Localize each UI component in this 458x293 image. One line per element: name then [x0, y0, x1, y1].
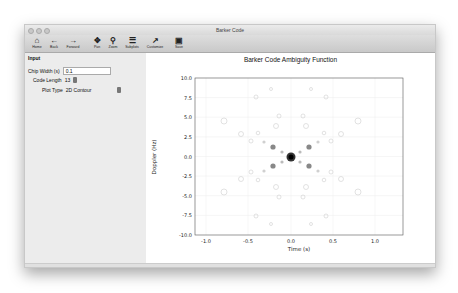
code-length-dropdown-icon[interactable] — [73, 77, 77, 83]
input-panel-header: Input — [28, 55, 40, 61]
input-panel: Input Chip Width (s) 0.1 Code Length 13 … — [25, 53, 145, 264]
floppy-disk-icon: ▣ — [175, 36, 183, 45]
svg-text:0.0: 0.0 — [184, 154, 192, 160]
chip-width-label: Chip Width (s) — [28, 68, 60, 74]
svg-text:0.0: 0.0 — [287, 238, 295, 244]
arrow-left-icon: ← — [50, 36, 58, 45]
svg-text:-0.5: -0.5 — [243, 238, 253, 244]
chart-edit-icon: ↗ — [152, 36, 159, 45]
chip-width-input[interactable]: 0.1 — [63, 67, 111, 75]
svg-text:-10.0: -10.0 — [179, 232, 192, 238]
forward-button[interactable]: → Forward — [65, 36, 81, 50]
toolbar: ⌂ Home ← Back → Forward ✥ Pan ⚲ Zoom ☰ S… — [25, 35, 435, 53]
home-icon: ⌂ — [35, 36, 40, 45]
app-window: Barker Code ⌂ Home ← Back → Forward ✥ Pa… — [24, 24, 436, 268]
sliders-icon: ☰ — [129, 36, 136, 45]
code-length-value[interactable]: 13 — [65, 77, 71, 83]
y-axis-label: Doppler (Hz) — [151, 140, 158, 175]
customize-button[interactable]: ↗ Customize — [146, 36, 164, 50]
svg-text:-5.0: -5.0 — [182, 193, 192, 199]
plot-type-row: Plot Type 2D Contour — [42, 87, 121, 93]
svg-text:0.5: 0.5 — [329, 238, 337, 244]
back-button[interactable]: ← Back — [47, 36, 61, 50]
save-button[interactable]: ▣ Save — [173, 36, 185, 50]
ambiguity-plot: 10.0 7.5 5.0 2.5 0.0 -2.5 -5.0 -7.5 -10.… — [146, 53, 435, 264]
chip-width-row: Chip Width (s) 0.1 — [28, 67, 111, 75]
close-window-button[interactable] — [28, 28, 34, 34]
plot-type-label: Plot Type — [42, 87, 63, 93]
plot-canvas[interactable]: Barker Code Ambiguity Function — [146, 53, 435, 264]
svg-text:5.0: 5.0 — [184, 114, 192, 120]
subplots-button[interactable]: ☰ Subplots — [124, 36, 140, 50]
chart-title: Barker Code Ambiguity Function — [146, 56, 435, 63]
window-title: Barker Code — [216, 27, 244, 33]
svg-text:-1.0: -1.0 — [201, 238, 211, 244]
move-icon: ✥ — [94, 36, 101, 45]
minimize-window-button[interactable] — [36, 28, 42, 34]
title-bar: Barker Code — [25, 25, 435, 35]
arrow-right-icon: → — [69, 36, 77, 45]
svg-text:7.5: 7.5 — [184, 95, 192, 101]
plot-type-dropdown-icon[interactable] — [117, 87, 121, 93]
zoom-button[interactable]: ⚲ Zoom — [107, 36, 119, 50]
plot-type-select[interactable]: 2D Contour — [66, 87, 114, 93]
main-content: Input Chip Width (s) 0.1 Code Length 13 … — [25, 53, 435, 264]
code-length-label: Code Length — [33, 77, 62, 83]
x-tick-labels: -1.0 -0.5 0.0 0.5 1.0 — [201, 238, 379, 244]
svg-text:-7.5: -7.5 — [182, 212, 192, 218]
pan-button[interactable]: ✥ Pan — [91, 36, 103, 50]
x-axis-label: Time (s) — [287, 246, 310, 252]
home-button[interactable]: ⌂ Home — [30, 36, 44, 50]
code-length-row: Code Length 13 — [33, 77, 77, 83]
magnifier-icon: ⚲ — [110, 36, 116, 45]
zoom-window-button[interactable] — [44, 28, 50, 34]
window-controls — [28, 28, 50, 34]
svg-text:-2.5: -2.5 — [182, 173, 192, 179]
svg-text:2.5: 2.5 — [184, 134, 192, 140]
y-tick-labels: 10.0 7.5 5.0 2.5 0.0 -2.5 -5.0 -7.5 -10.… — [179, 75, 192, 238]
status-bar — [25, 263, 435, 267]
svg-text:1.0: 1.0 — [371, 238, 379, 244]
svg-text:10.0: 10.0 — [181, 75, 192, 81]
